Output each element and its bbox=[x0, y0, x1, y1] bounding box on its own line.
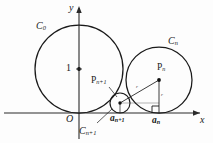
label-segment-vertical: r bbox=[161, 92, 163, 97]
center-dot-Cn bbox=[157, 78, 161, 82]
label-point-Pn: Pn bbox=[157, 63, 165, 73]
label-segment-hypotenuse: r bbox=[136, 84, 138, 89]
label-point-Pn-plus-1: Pn+1 bbox=[91, 76, 106, 86]
label-circle-Cn-plus-1: Cn+1 bbox=[79, 126, 96, 137]
figure-canvas bbox=[0, 0, 213, 143]
label-y-axis: y bbox=[69, 3, 73, 13]
label-circle-Cn: Cn bbox=[168, 36, 178, 47]
center-dot-Cn-plus-1 bbox=[118, 101, 121, 104]
label-circle-C0: C0 bbox=[36, 21, 46, 32]
label-origin: O bbox=[66, 114, 73, 124]
label-a-n-plus-1: an+1 bbox=[110, 114, 125, 124]
label-unit-one: 1 bbox=[66, 63, 71, 73]
geometry-figure: C0 Cn Cn+1 Pn Pn+1 1 O an+1 an x y r r bbox=[0, 0, 213, 143]
y-axis bbox=[76, 6, 81, 139]
label-x-axis: x bbox=[200, 115, 204, 125]
label-a-n: an bbox=[152, 116, 160, 126]
